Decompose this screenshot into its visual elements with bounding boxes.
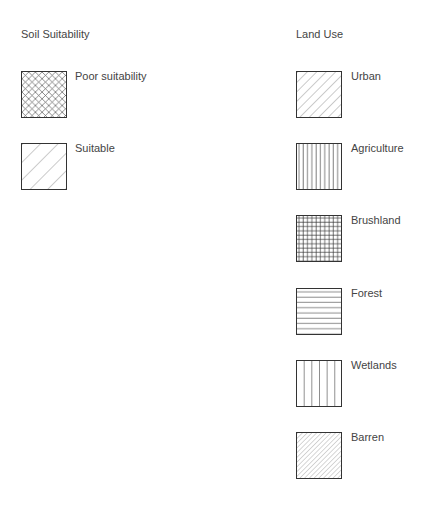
diagonal-dense-pattern-icon xyxy=(296,432,342,479)
grid-pattern-icon xyxy=(296,215,342,262)
vertical-wide-pattern-icon xyxy=(296,360,342,407)
landuse-legend-title: Land Use xyxy=(296,28,343,40)
soil-legend-title: Soil Suitability xyxy=(21,28,89,40)
legend-label: Poor suitability xyxy=(75,70,147,82)
legend-label: Urban xyxy=(351,70,381,82)
legend-label: Suitable xyxy=(75,142,115,154)
wide-diagonal-pattern-icon xyxy=(21,143,67,190)
vertical-dense-pattern-icon xyxy=(296,143,342,190)
legend-label: Barren xyxy=(351,431,384,443)
legend-label: Forest xyxy=(351,287,382,299)
crosshatch-pattern-icon xyxy=(21,71,67,118)
legend-label: Wetlands xyxy=(351,359,397,371)
legend-label: Agriculture xyxy=(351,142,404,154)
legend-label: Brushland xyxy=(351,214,401,226)
horizontal-pattern-icon xyxy=(296,288,342,335)
diagonal-pattern-icon xyxy=(296,71,342,118)
